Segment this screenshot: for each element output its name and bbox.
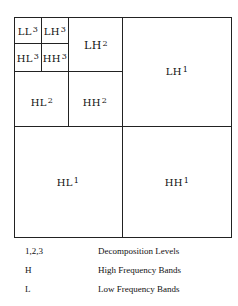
outer-right-border [231,17,232,238]
subband-hh2: HH2 [83,97,107,108]
level2-horizontal-divider [14,71,123,72]
level3-vertical-divider [41,17,42,72]
legend-key: H [25,265,32,275]
subband-hl1: HL1 [57,177,79,188]
outer-left-border [14,17,15,238]
subband-hl3: HL3 [17,53,39,64]
legend-description: High Frequency Bands [98,265,181,275]
level1-vertical-divider [122,17,123,238]
level2-vertical-divider [68,17,69,127]
outer-bottom-border [14,237,232,238]
subband-hh1: HH1 [165,177,189,188]
legend-description: Low Frequency Bands [98,284,179,294]
outer-top-border [14,17,232,18]
legend-description: Decomposition Levels [98,246,179,256]
subband-hh3: HH3 [43,53,67,64]
subband-lh1: LH1 [166,66,188,77]
subband-ll3: LL3 [18,26,38,37]
subband-lh3: LH3 [44,26,66,37]
legend-key: 1,2,3 [25,246,43,256]
subband-lh2: LH2 [84,39,108,52]
subband-hl2: HL2 [31,97,53,108]
level1-horizontal-divider [14,126,232,127]
level3-horizontal-divider [14,43,69,44]
legend-key: L [25,284,31,294]
